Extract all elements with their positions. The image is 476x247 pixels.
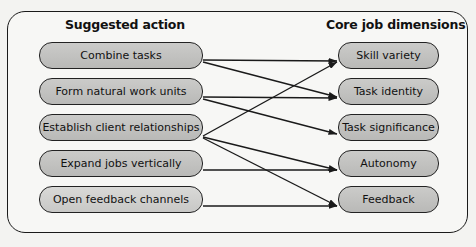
dimension-label: Autonomy <box>360 157 416 170</box>
dimension-task-identity: Task identity <box>338 78 439 105</box>
dimension-skill-variety: Skill variety <box>338 42 439 69</box>
action-label: Expand jobs vertically <box>60 157 181 170</box>
action-form-natural-work-units: Form natural work units <box>39 78 203 105</box>
dimension-label: Feedback <box>362 193 414 206</box>
heading-suggested-action: Suggested action <box>65 17 185 32</box>
action-label: Open feedback channels <box>53 193 189 206</box>
action-combine-tasks: Combine tasks <box>39 42 203 69</box>
action-open-feedback-channels: Open feedback channels <box>39 186 203 213</box>
dimension-label: Task significance <box>342 121 435 134</box>
dimension-autonomy: Autonomy <box>338 150 439 177</box>
action-label: Combine tasks <box>80 49 161 62</box>
action-label: Establish client relationships <box>42 121 199 134</box>
action-label: Form natural work units <box>55 85 186 98</box>
dimension-task-significance: Task significance <box>338 114 439 141</box>
dimension-feedback: Feedback <box>338 186 439 213</box>
action-expand-jobs-vertically: Expand jobs vertically <box>39 150 203 177</box>
dimension-label: Skill variety <box>356 49 420 62</box>
heading-core-job-dimensions: Core job dimensions <box>326 17 465 32</box>
dimension-label: Task identity <box>354 85 423 98</box>
action-establish-client-relationships: Establish client relationships <box>39 114 203 141</box>
